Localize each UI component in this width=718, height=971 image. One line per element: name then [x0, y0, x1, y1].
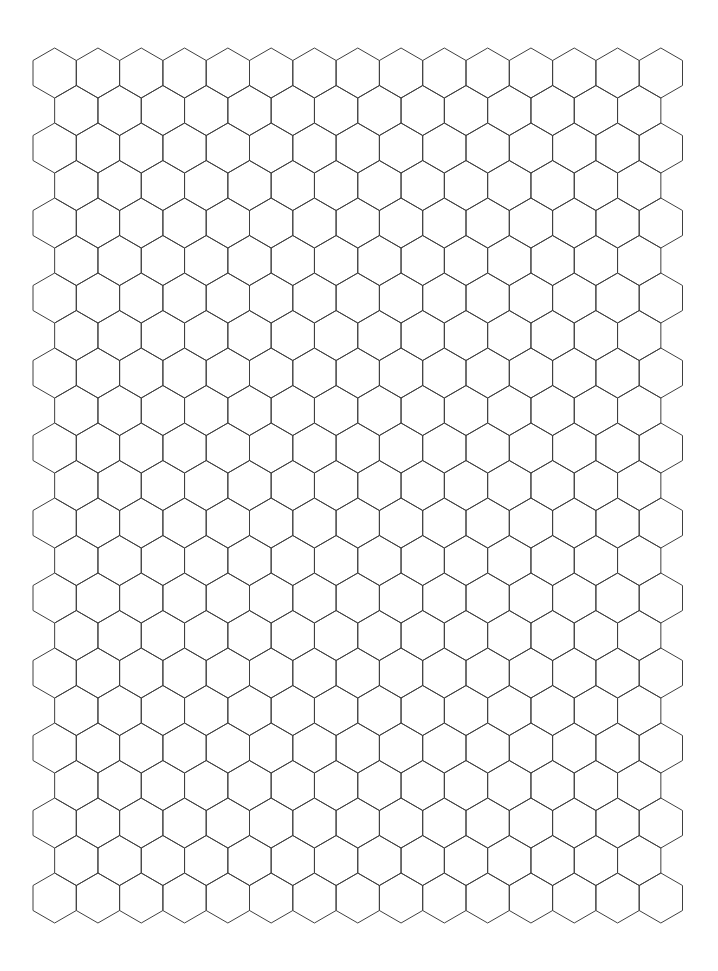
hexagon-cell	[293, 198, 336, 248]
hexagon-cell	[553, 798, 596, 848]
hexagon-cell	[120, 48, 163, 98]
hexagon-cell	[55, 236, 98, 286]
hexagon-cell	[33, 198, 76, 248]
hexagon-cell	[401, 836, 444, 886]
hexagon-cell	[401, 611, 444, 661]
hexagon-cell	[141, 386, 184, 436]
hexagon-cell	[466, 573, 509, 623]
hexagon-cell	[379, 423, 422, 473]
hexagon-cell	[466, 48, 509, 98]
hexagon-cell	[163, 498, 206, 548]
hexagon-cell	[401, 761, 444, 811]
hexagon-cell	[488, 311, 531, 361]
hexagon-cell	[271, 836, 314, 886]
hexagon-cell	[98, 611, 141, 661]
hexagon-cell	[271, 236, 314, 286]
hexagon-cell	[33, 873, 76, 923]
hexagon-cell	[76, 648, 119, 698]
hexagon-cell	[466, 648, 509, 698]
hexagon-cell	[55, 386, 98, 436]
hexagon-cell	[185, 86, 228, 136]
hexagon-cell	[228, 311, 271, 361]
hexagon-cell	[336, 348, 379, 398]
hexagon-cell	[358, 836, 401, 886]
hexagon-cell	[250, 198, 293, 248]
hexagon-cell	[444, 611, 487, 661]
hexagon-cell	[639, 273, 682, 323]
hexagon-cell	[250, 423, 293, 473]
hexagon-cell	[250, 48, 293, 98]
hexagon-cell	[336, 648, 379, 698]
hexagon-cell	[531, 686, 574, 736]
hexagon-cell	[185, 686, 228, 736]
hexagon-cell	[98, 761, 141, 811]
hexagon-cell	[185, 836, 228, 886]
hexagon-cell	[444, 836, 487, 886]
hexagon-cell	[271, 461, 314, 511]
hexagon-cell	[379, 648, 422, 698]
hexagon-cell	[401, 86, 444, 136]
hexagon-cell	[639, 573, 682, 623]
hexagon-cell	[466, 873, 509, 923]
hexagon-cell	[488, 536, 531, 586]
hexagon-cell	[120, 348, 163, 398]
hexagon-cell-layer	[33, 48, 683, 923]
hexagon-cell	[509, 123, 552, 173]
hexagon-cell	[206, 798, 249, 848]
hexagon-cell	[401, 686, 444, 736]
hexagon-cell	[358, 761, 401, 811]
hexagon-cell	[401, 386, 444, 436]
hexagon-cell	[98, 386, 141, 436]
hexagon-cell	[401, 236, 444, 286]
hexagon-cell	[120, 798, 163, 848]
hexagon-cell	[509, 648, 552, 698]
hexagon-cell	[76, 273, 119, 323]
hexagon-cell	[574, 311, 617, 361]
hexagon-cell	[596, 723, 639, 773]
hexagon-cell	[531, 611, 574, 661]
hexagon-cell	[423, 273, 466, 323]
hexagon-cell	[314, 161, 357, 211]
hexagon-cell	[293, 273, 336, 323]
hexagon-cell	[423, 723, 466, 773]
hexagon-cell	[423, 348, 466, 398]
hexagon-cell	[163, 123, 206, 173]
hexagon-cell	[206, 48, 249, 98]
hexagon-cell	[488, 86, 531, 136]
hexagon-cell	[553, 648, 596, 698]
hexagon-cell	[444, 386, 487, 436]
hexagon-cell	[141, 161, 184, 211]
hexagon-cell	[314, 836, 357, 886]
hexagon-cell	[98, 236, 141, 286]
hexagon-cell	[33, 798, 76, 848]
hexagon-cell	[33, 573, 76, 623]
hexagon-cell	[618, 536, 661, 586]
hexagon-cell	[553, 273, 596, 323]
hexagon-cell	[444, 86, 487, 136]
hexagon-cell	[423, 123, 466, 173]
hexagon-cell	[466, 798, 509, 848]
hexagon-cell	[639, 48, 682, 98]
hexagon-cell	[293, 873, 336, 923]
hexagon-cell	[206, 198, 249, 248]
hexagon-cell	[163, 798, 206, 848]
hexagon-cell	[358, 461, 401, 511]
hexagon-cell	[639, 873, 682, 923]
hexagon-cell	[553, 573, 596, 623]
hexagon-cell	[639, 498, 682, 548]
hexagon-cell	[336, 798, 379, 848]
hexagon-cell	[55, 86, 98, 136]
hexagon-cell	[141, 611, 184, 661]
hexagon-cell	[618, 161, 661, 211]
hexagon-cell	[466, 348, 509, 398]
hexagon-cell	[618, 836, 661, 886]
hexagon-cell	[206, 873, 249, 923]
hexagon-cell	[509, 873, 552, 923]
hexagon-cell	[618, 761, 661, 811]
hexagon-cell	[466, 273, 509, 323]
hexagon-cell	[488, 161, 531, 211]
hexagon-cell	[509, 423, 552, 473]
hexagon-cell	[293, 348, 336, 398]
hexagon-cell	[488, 386, 531, 436]
hexagon-cell	[509, 723, 552, 773]
